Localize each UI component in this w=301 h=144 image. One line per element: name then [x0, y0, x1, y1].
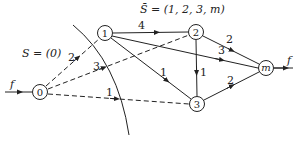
- edge-2-3-capacity: 1: [200, 66, 207, 79]
- node-m: m: [259, 61, 274, 76]
- flow-network-diagram: f f 2 3 1 4 3 1 2 1 2 0 1 2 3: [0, 0, 301, 144]
- set-S-bar-label: S̄ = (1, 2, 3, m): [140, 3, 225, 16]
- edge-0-3-capacity: 1: [106, 86, 113, 99]
- svg-text:m: m: [261, 62, 270, 73]
- node-3: 3: [190, 97, 205, 112]
- edge-0-2-capacity: 3: [93, 60, 100, 73]
- svg-text:2: 2: [193, 27, 199, 38]
- node-2: 2: [189, 25, 204, 40]
- edge-1-2-capacity: 4: [138, 19, 145, 32]
- svg-text:3: 3: [194, 99, 200, 110]
- edge-2-m-arrow: [228, 49, 232, 51]
- edge-2-m-capacity: 2: [226, 33, 233, 46]
- output-flow-label: f: [286, 54, 293, 67]
- input-flow-label: f: [9, 78, 16, 91]
- svg-text:1: 1: [102, 28, 108, 39]
- svg-text:0: 0: [37, 87, 43, 98]
- edge-0-1-capacity: 2: [68, 51, 75, 64]
- edge-1-3: [111, 38, 191, 99]
- edge-0-3: [48, 94, 189, 104]
- node-1: 1: [98, 26, 113, 41]
- edge-3-m-capacity: 2: [227, 74, 234, 87]
- set-S-label: S = (0): [22, 47, 61, 60]
- cut-curve: [73, 25, 129, 135]
- node-0: 0: [33, 85, 48, 100]
- edge-1-3-capacity: 1: [160, 66, 167, 79]
